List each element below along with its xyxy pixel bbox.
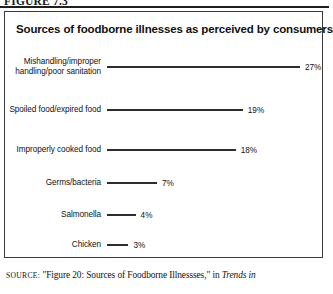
bar-track: 19%: [107, 106, 322, 115]
bar-track: 18%: [107, 146, 322, 155]
bar-category-label: Salmonella: [5, 210, 107, 220]
source-prefix: SOURCE:: [6, 271, 40, 280]
figure-label: FIGURE 7.3: [4, 0, 68, 5]
bar-category-label: Mishandling/improper handling/poor sanit…: [5, 57, 107, 77]
bar-track: 27%: [107, 63, 322, 72]
source-text: "Figure 20: Sources of Foodborne Illness…: [40, 270, 222, 280]
bar-track: 7%: [107, 179, 322, 188]
bar-track: 3%: [107, 241, 322, 250]
header-rule: [0, 6, 329, 8]
bar-value-label: 3%: [128, 241, 145, 250]
bar-value-label: 27%: [300, 63, 321, 72]
bar-value-label: 7%: [157, 179, 174, 188]
bar-row: Spoiled food/expired food19%: [5, 95, 322, 125]
bar-row: Germs/bacteria7%: [5, 171, 322, 195]
bar-row: Chicken3%: [5, 234, 322, 256]
bar-category-label: Chicken: [5, 240, 107, 250]
bar: [107, 109, 243, 111]
bar: [107, 182, 157, 184]
bar-category-label: Improperly cooked food: [5, 145, 107, 155]
source-note: SOURCE: "Figure 20: Sources of Foodborne…: [6, 269, 324, 282]
bar-row: Improperly cooked food18%: [5, 135, 322, 165]
bar-value-label: 4%: [136, 211, 153, 220]
bar-track: 4%: [107, 211, 322, 220]
bar-value-label: 18%: [236, 146, 257, 155]
bar: [107, 244, 128, 246]
chart-title: Sources of foodborne illnesses as percei…: [16, 23, 333, 35]
bar: [107, 66, 300, 68]
figure-box: Sources of foodborne illnesses as percei…: [4, 11, 323, 258]
bar-category-label: Germs/bacteria: [5, 178, 107, 188]
bar: [107, 149, 236, 151]
bar-row: Mishandling/improper handling/poor sanit…: [5, 48, 322, 86]
source-publication: Trends in: [222, 270, 256, 280]
bar-chart-plot-area: Mishandling/improper handling/poor sanit…: [5, 43, 322, 255]
bar-row: Salmonella4%: [5, 203, 322, 227]
bar: [107, 214, 136, 216]
bar-value-label: 19%: [243, 106, 264, 115]
bar-category-label: Spoiled food/expired food: [5, 105, 107, 115]
